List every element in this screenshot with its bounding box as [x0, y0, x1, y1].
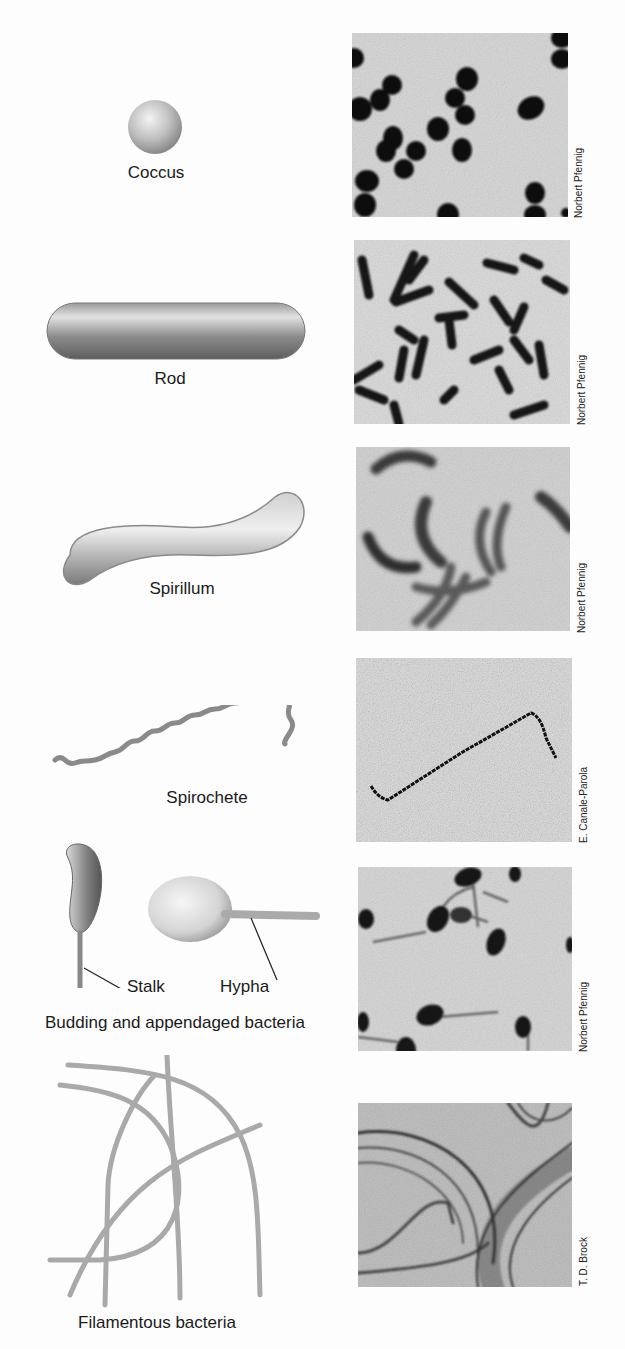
coccus-micrograph: [352, 33, 568, 217]
coccus-photo-credit: Norbert Pfennig: [573, 148, 584, 218]
spirillum-micrograph: [356, 447, 570, 631]
rod-micrograph: [354, 240, 570, 424]
stalk-callout: Stalk: [127, 977, 165, 997]
budding-micrograph: [358, 867, 572, 1051]
coccus-label: Coccus: [128, 163, 185, 183]
spirillum-photo-credit: Norbert Pfennig: [576, 563, 587, 633]
budding-photo-credit: Norbert Pfennig: [578, 982, 589, 1052]
filamentous-photo-credit: T. D. Brock: [578, 1237, 589, 1286]
rod-photo-credit: Norbert Pfennig: [576, 355, 587, 425]
spirochete-label: Spirochete: [166, 788, 247, 808]
filamentous-illustration: [40, 1055, 320, 1315]
spirochete-photo-credit: E. Canale-Parola: [578, 767, 589, 843]
budding-label: Budding and appendaged bacteria: [45, 1013, 305, 1033]
rod-illustration: [45, 301, 310, 363]
spirochete-micrograph: [356, 658, 572, 842]
filamentous-micrograph: [358, 1103, 572, 1287]
hypha-callout: Hypha: [220, 977, 269, 997]
budding-illustration: [50, 838, 330, 988]
spirillum-label: Spirillum: [149, 579, 214, 599]
filamentous-label: Filamentous bacteria: [78, 1313, 236, 1333]
coccus-illustration: [125, 97, 185, 157]
rod-label: Rod: [154, 369, 185, 389]
